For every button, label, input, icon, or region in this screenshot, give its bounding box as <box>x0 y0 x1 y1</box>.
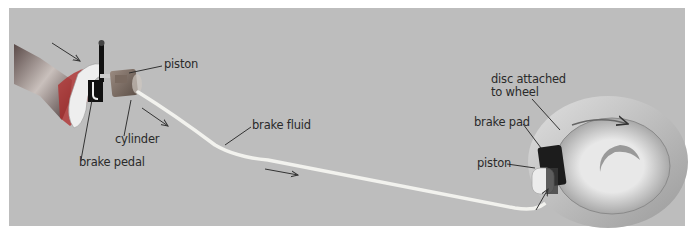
label-brake-fluid: brake fluid <box>252 119 311 132</box>
brake-diagram-illustration <box>0 0 694 235</box>
brake-pedal-icon <box>69 40 116 128</box>
label-disc-line2: to wheel <box>491 86 539 99</box>
label-piston-master: piston <box>164 58 198 71</box>
label-cylinder: cylinder <box>115 133 159 146</box>
label-brake-pad: brake pad <box>474 116 530 129</box>
label-brake-pedal: brake pedal <box>79 156 145 169</box>
brake-fluid-tube <box>138 92 548 209</box>
label-piston-caliper: piston <box>477 157 511 170</box>
